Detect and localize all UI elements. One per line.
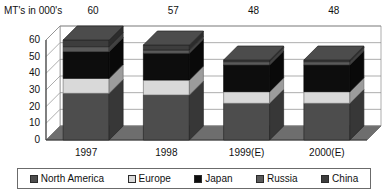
x-axis-tick-label: 2000(E) xyxy=(297,147,357,158)
bar-segment-front xyxy=(63,93,109,140)
bar-column xyxy=(304,46,364,140)
y-axis-tick-label: 60 xyxy=(14,34,40,45)
bar-segment-front xyxy=(304,62,350,65)
bar-segment-front xyxy=(143,53,189,80)
y-axis-tick-label: 50 xyxy=(14,51,40,62)
bar-segment-front xyxy=(143,50,189,53)
bar-segment-front xyxy=(63,52,109,79)
bar-segment-front xyxy=(304,65,350,92)
y-axis-tick-label: 40 xyxy=(14,67,40,78)
legend-item[interactable]: China xyxy=(321,173,358,184)
bar-segment-front xyxy=(224,62,270,65)
x-axis-tick-label: 1997 xyxy=(56,147,116,158)
y-axis-tick-label: 0 xyxy=(14,134,40,145)
legend-swatch-icon xyxy=(194,175,202,183)
bar-segment-front xyxy=(304,103,350,140)
legend-label: Japan xyxy=(205,173,232,184)
legend-label: China xyxy=(332,173,358,184)
legend-swatch-icon xyxy=(256,175,264,183)
legend: North AmericaEuropeJapanRussiaChina xyxy=(17,168,371,189)
legend-label: Europe xyxy=(139,173,171,184)
bar-segment-front xyxy=(143,95,189,140)
bar-segment-front xyxy=(224,92,270,104)
bar-column xyxy=(224,46,284,140)
bar-column xyxy=(63,26,123,140)
legend-item[interactable]: Japan xyxy=(194,173,232,184)
bar-segment-front xyxy=(63,47,109,52)
legend-swatch-icon xyxy=(321,175,329,183)
legend-label: North America xyxy=(41,173,104,184)
plot-area xyxy=(0,0,389,150)
chart-container: MT's in 000's 60574848 6050403020100 199… xyxy=(0,0,389,196)
legend-item[interactable]: North America xyxy=(30,173,104,184)
y-axis-tick-label: 30 xyxy=(14,84,40,95)
bar-segment-front xyxy=(143,45,189,50)
legend-item[interactable]: Russia xyxy=(256,173,298,184)
bar-segment-front xyxy=(304,92,350,104)
y-axis-tick-label: 20 xyxy=(14,101,40,112)
legend-swatch-icon xyxy=(128,175,136,183)
legend-swatch-icon xyxy=(30,175,38,183)
bar-column xyxy=(143,31,203,140)
x-axis-tick-label: 1999(E) xyxy=(217,147,277,158)
legend-item[interactable]: Europe xyxy=(128,173,171,184)
y-axis-tick-label: 10 xyxy=(14,117,40,128)
legend-label: Russia xyxy=(267,173,298,184)
bar-segment-front xyxy=(63,78,109,93)
x-axis-tick-label: 1998 xyxy=(136,147,196,158)
bar-segment-front xyxy=(224,103,270,140)
bar-segment-front xyxy=(224,65,270,92)
bar-segment-front xyxy=(63,40,109,47)
bar-segment-front xyxy=(143,80,189,95)
